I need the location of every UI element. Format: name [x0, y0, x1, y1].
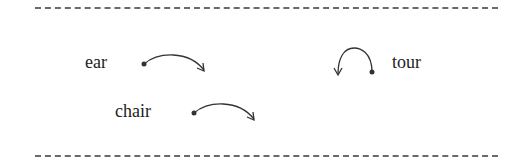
forward-arc-arrow-icon: [140, 50, 210, 80]
word-chair: chair: [115, 102, 151, 120]
backward-loop-arrow-icon: [330, 44, 380, 80]
top-dashed-line: [35, 7, 498, 9]
word-ear: ear: [85, 53, 107, 71]
forward-arc-arrow-icon: [190, 99, 260, 129]
bottom-dashed-line: [35, 155, 498, 157]
word-tour: tour: [392, 53, 421, 71]
